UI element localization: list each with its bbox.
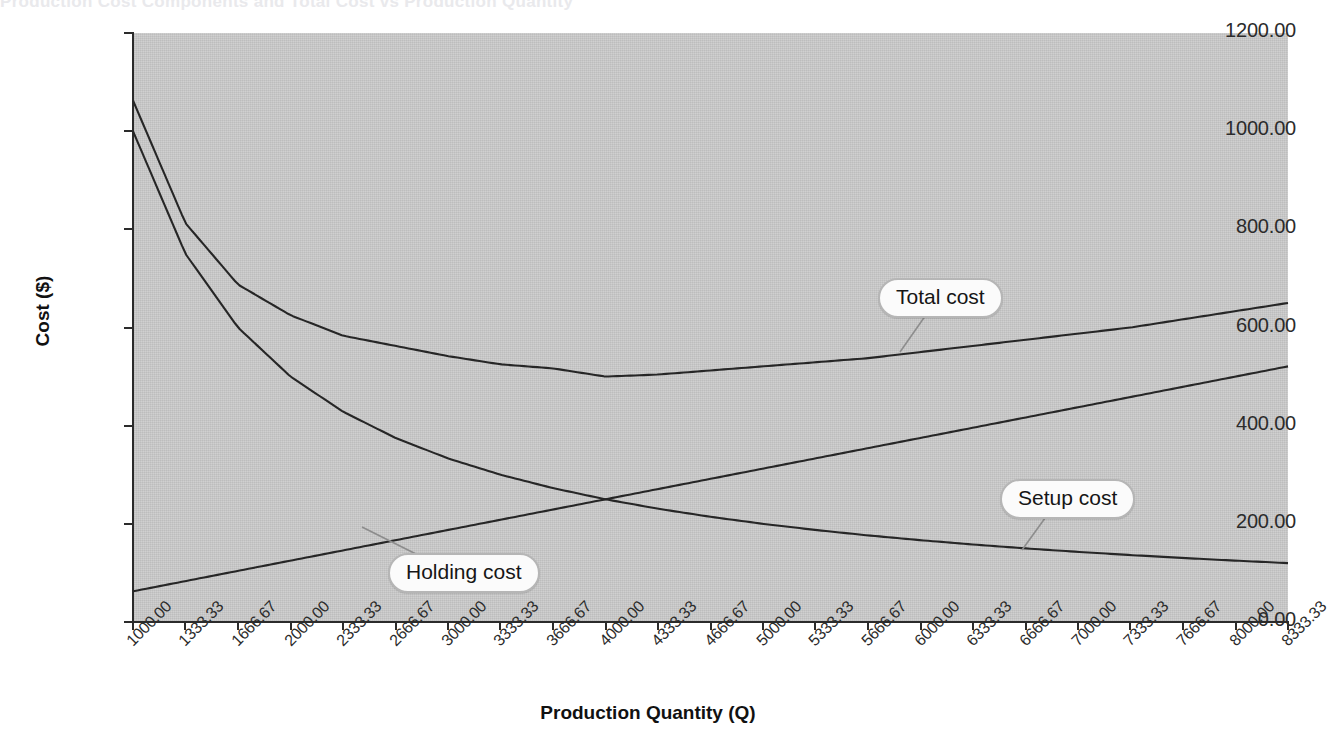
y-tick-label: 800.00	[1178, 215, 1296, 238]
y-tick-label: 400.00	[1178, 412, 1296, 435]
y-tick	[124, 130, 134, 132]
y-tick	[124, 425, 134, 427]
y-tick-label: 1200.00	[1178, 19, 1296, 42]
y-tick-label: 200.00	[1178, 510, 1296, 533]
cut-off-title: Production Cost Components and Total Cos…	[0, 0, 1296, 13]
x-axis-title: Production Quantity (Q)	[0, 702, 1296, 724]
y-tick	[124, 32, 134, 34]
setup-cost-callout[interactable]: Setup cost	[1000, 479, 1135, 519]
plot-area	[133, 33, 1288, 622]
y-tick	[124, 523, 134, 525]
y-tick	[124, 228, 134, 230]
y-tick	[124, 327, 134, 329]
holding-cost-callout[interactable]: Holding cost	[388, 553, 540, 593]
total-cost-callout[interactable]: Total cost	[878, 278, 1003, 318]
y-axis-title: Cost ($)	[32, 251, 54, 371]
y-tick-label: 1000.00	[1178, 117, 1296, 140]
y-tick-label: 600.00	[1178, 314, 1296, 337]
